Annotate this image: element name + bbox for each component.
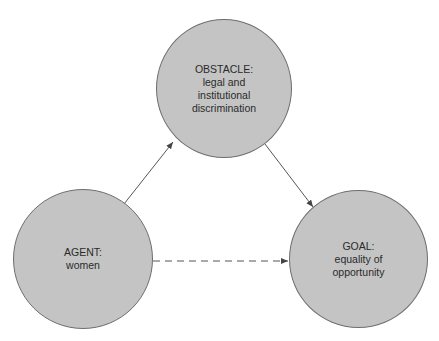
edge-obstacle-to-goal-arrow [265, 144, 313, 207]
actant-diagram: OBSTACLE: legal and institutional discri… [0, 0, 439, 341]
goal-role-label: GOAL: [342, 240, 374, 253]
edge-agent-to-obstacle-arrow [124, 142, 173, 204]
agent-description: women [66, 259, 100, 272]
goal-node: GOAL: equality of opportunity [289, 190, 428, 328]
agent-node: AGENT: women [13, 189, 153, 329]
obstacle-node: OBSTACLE: legal and institutional discri… [156, 19, 292, 158]
obstacle-description: legal and institutional discrimination [192, 76, 256, 115]
obstacle-role-label: OBSTACLE: [195, 63, 253, 76]
goal-description: equality of opportunity [333, 253, 385, 279]
agent-role-label: AGENT: [64, 246, 102, 259]
